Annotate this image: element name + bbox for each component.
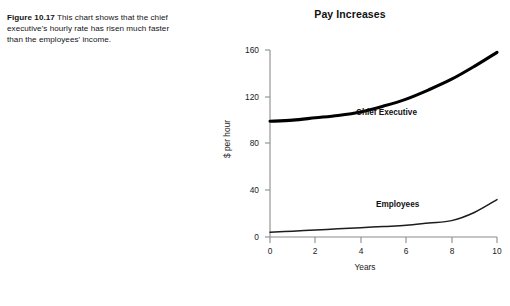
series-label-employees: Employees: [376, 200, 419, 209]
x-tick-label-10: 10: [487, 246, 507, 256]
series-label-chief-executive: Chief Executive: [356, 108, 417, 117]
x-tick-label-8: 8: [442, 246, 462, 256]
x-tick-label-2: 2: [305, 246, 325, 256]
y-tick-label-120: 120: [233, 92, 259, 102]
y-tick-label-160: 160: [233, 45, 259, 55]
y-tick-label-80: 80: [233, 138, 259, 148]
x-tick-label-6: 6: [396, 246, 416, 256]
x-tick-label-0: 0: [260, 246, 280, 256]
x-axis-label: Years: [245, 262, 485, 272]
x-tick-label-4: 4: [351, 246, 371, 256]
figure-caption: Figure 10.17 This chart shows that the c…: [7, 12, 187, 46]
y-tick-label-40: 40: [233, 185, 259, 195]
figure-number: Figure 10.17: [7, 13, 55, 22]
chart-container: Pay Increases 0 40 80 120 160 0 2 4 6 8 …: [215, 0, 510, 290]
y-tick-label-0: 0: [233, 232, 259, 242]
y-axis-label: $ per hour: [222, 109, 232, 169]
